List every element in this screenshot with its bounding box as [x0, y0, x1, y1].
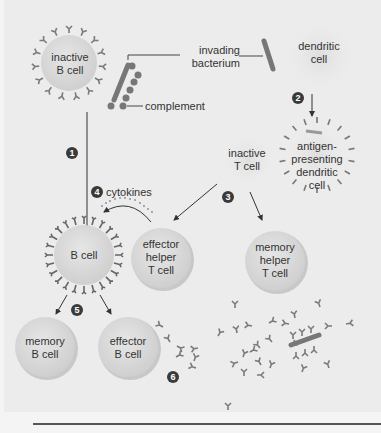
invading-bacterium: [264, 41, 273, 69]
label-cytokines: cytokines: [106, 186, 152, 199]
arrow-step-5-memory: [56, 295, 67, 314]
label-effector-b-cell: effector B cell: [103, 335, 153, 361]
label-inactive-b-cell: inactive B cell: [48, 51, 92, 77]
arrow-step-5-effector: [100, 295, 111, 314]
step-badge-6: 6: [167, 371, 179, 383]
arrow-step-3-effector: [174, 184, 217, 220]
step-badge-5: 5: [71, 304, 83, 316]
label-memory-helper-t-cell: memory helper T cell: [248, 241, 302, 280]
step-badge-2: 2: [292, 92, 304, 104]
arrow-step-3-memory: [250, 192, 262, 220]
free-antibodies: [155, 299, 353, 410]
step-badge-4: 4: [91, 186, 103, 198]
bound-bacterium-complement: [108, 63, 142, 110]
label-dendritic-cell: dendritic cell: [289, 40, 349, 66]
bottom-rule: [33, 423, 381, 425]
label-complement: complement: [145, 100, 205, 113]
bacterium-leader-line: [128, 55, 180, 60]
label-invading-bacterium: invading bacterium: [180, 44, 240, 70]
cytokines-arrow: [104, 206, 151, 222]
label-memory-b-cell: memory B cell: [20, 335, 70, 361]
label-b-cell: B cell: [60, 249, 108, 262]
cytokine-dots: [101, 197, 153, 213]
label-inactive-t-cell: inactive T cell: [222, 147, 272, 173]
label-antigen-presenting-dendritic-cell: antigen- presenting dendritic cell: [284, 140, 350, 192]
step-badge-1: 1: [66, 147, 78, 159]
antibody-coated-bacterium: [290, 326, 319, 359]
step-badge-3: 3: [222, 191, 234, 203]
label-effector-helper-t-cell: effector helper T cell: [134, 238, 188, 277]
